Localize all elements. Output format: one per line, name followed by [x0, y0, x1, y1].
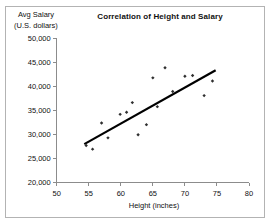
scatter-point [91, 147, 94, 150]
scatter-point [106, 136, 109, 139]
scatter-point [125, 110, 128, 113]
scatter-point [136, 133, 139, 136]
x-tick-label: 60 [117, 189, 125, 198]
scatter-point [118, 113, 121, 116]
scatter-point [151, 76, 154, 79]
x-tick-label: 65 [149, 189, 157, 198]
chart-screenshot: Correlation of Height and Salary Avg Sal… [0, 0, 273, 223]
y-tick-label: 35,000 [28, 106, 51, 115]
y-tick-label: 45,000 [28, 58, 51, 67]
scatter-point [191, 74, 194, 77]
scatter-point [145, 123, 148, 126]
y-tick-label: 40,000 [28, 82, 51, 91]
x-tick-label: 70 [181, 189, 189, 198]
x-axis-title: Height (inches) [56, 201, 252, 210]
scatter-point [156, 105, 159, 108]
scatter-plot-area: 20,00025,00030,00035,00040,00045,00050,0… [0, 0, 273, 223]
y-tick-label: 30,000 [28, 130, 51, 139]
x-tick-label: 55 [85, 189, 93, 198]
x-tick-label: 80 [245, 189, 253, 198]
x-tick-label: 75 [213, 189, 221, 198]
y-tick-label: 25,000 [28, 154, 51, 163]
y-tick-label: 20,000 [28, 178, 51, 187]
scatter-point [183, 74, 186, 77]
scatter-point [202, 94, 205, 97]
scatter-point [100, 121, 103, 124]
x-tick-label: 50 [53, 189, 61, 198]
trendline [84, 70, 215, 144]
y-tick-label: 50,000 [28, 34, 51, 43]
scatter-point [163, 66, 166, 69]
scatter-point [211, 79, 214, 82]
scatter-point [131, 101, 134, 104]
